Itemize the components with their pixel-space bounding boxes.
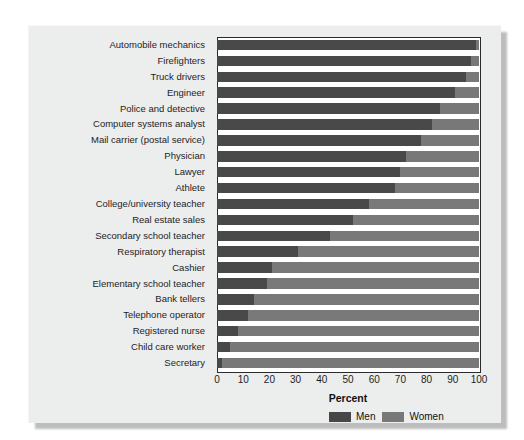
bar-segment-women [432,119,479,130]
category-label: Athlete [175,183,205,193]
category-label: Child care worker [131,342,205,352]
x-tick-label: 60 [369,374,380,385]
bar-segment-women [267,278,479,289]
bar-row [217,40,479,51]
x-tick-label: 50 [342,374,353,385]
bar-segment-women [395,183,479,194]
x-tick-label: 0 [214,374,220,385]
category-label: Engineer [167,88,205,98]
legend-entry: Men [329,411,375,422]
bar-segment-women [248,310,479,321]
bar-row [217,278,479,289]
bar-segment-women [466,72,479,83]
bar-segment-men [217,326,238,337]
bar-row [217,215,479,226]
bar-row [217,342,479,353]
bar-row [217,167,479,178]
bar-row [217,294,479,305]
bar-segment-men [217,103,440,114]
bar-segment-women [272,262,479,273]
bar-segment-men [217,262,272,273]
chart-legend: MenWomen [329,411,444,422]
bar-segment-men [217,72,466,83]
category-label: Computer systems analyst [93,119,205,129]
chart-panel: Automobile mechanicsFirefightersTruck dr… [28,25,501,423]
bar-segment-women [406,151,479,162]
category-label: Police and detective [120,104,205,114]
category-label: Bank tellers [155,294,205,304]
bar-row [217,56,479,67]
bar-segment-men [217,199,369,210]
x-tick-label: 90 [447,374,458,385]
category-label: Telephone operator [123,310,205,320]
bar-row [217,183,479,194]
bar-segment-women [230,342,479,353]
bar-row [217,231,479,242]
bar-row [217,119,479,130]
bar-segment-men [217,87,455,98]
x-tick-label: 20 [264,374,275,385]
bars-container [217,37,479,371]
bar-segment-women [353,215,479,226]
bar-segment-men [217,40,476,51]
bar-segment-men [217,215,353,226]
bar-segment-women [471,56,479,67]
bar-row [217,87,479,98]
bar-segment-women [330,231,479,242]
bar-segment-men [217,135,421,146]
x-tick-label: 80 [421,374,432,385]
bar-segment-men [217,56,471,67]
bar-row [217,72,479,83]
category-label: Cashier [172,263,205,273]
category-label: College/university teacher [96,199,205,209]
bar-segment-men [217,119,432,130]
category-label: Firefighters [157,56,205,66]
x-tick-label: 10 [238,374,249,385]
bar-segment-women [254,294,479,305]
bar-segment-men [217,231,330,242]
bar-row [217,246,479,257]
bar-segment-men [217,310,248,321]
category-label: Mail carrier (postal service) [91,135,205,145]
bar-segment-men [217,246,298,257]
bar-segment-women [369,199,479,210]
bar-segment-women [298,246,479,257]
bar-segment-women [455,87,479,98]
bar-row [217,199,479,210]
x-tick-label: 40 [316,374,327,385]
bar-segment-men [217,278,267,289]
bar-segment-women [421,135,479,146]
legend-entry: Women [382,411,443,422]
bar-row [217,358,479,369]
legend-swatch-women [382,412,404,422]
bar-segment-men [217,342,230,353]
bar-segment-men [217,183,395,194]
category-label: Physician [164,151,205,161]
bar-segment-women [400,167,479,178]
category-label: Elementary school teacher [93,279,205,289]
x-tick-label: 70 [395,374,406,385]
category-label: Registered nurse [133,326,205,336]
bar-row [217,151,479,162]
bar-segment-women [476,40,479,51]
figure: Automobile mechanicsFirefightersTruck dr… [0,0,524,440]
x-axis-title: Percent [217,392,479,404]
legend-label: Men [356,411,375,422]
category-label: Truck drivers [150,72,205,82]
bar-segment-men [217,167,400,178]
bar-row [217,326,479,337]
bar-segment-men [217,294,254,305]
x-axis-ticks: 0102030405060708090100 [217,374,479,388]
bar-row [217,135,479,146]
category-label: Real estate sales [132,215,205,225]
category-label: Lawyer [174,167,205,177]
category-axis-labels: Automobile mechanicsFirefightersTruck dr… [29,37,212,371]
bar-row [217,310,479,321]
bar-row [217,103,479,114]
bar-segment-women [222,358,479,369]
bar-segment-men [217,151,406,162]
legend-swatch-men [329,412,351,422]
legend-label: Women [409,411,443,422]
x-tick-label: 30 [290,374,301,385]
category-label: Automobile mechanics [109,40,205,50]
